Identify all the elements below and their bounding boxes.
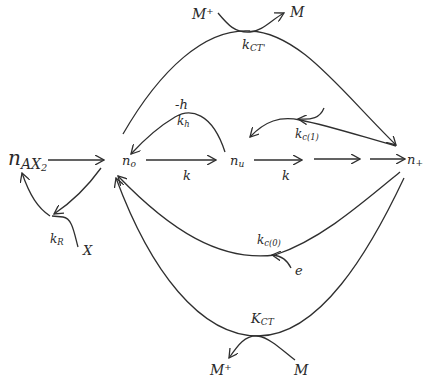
arrow-mplus-to-m-top bbox=[218, 13, 284, 32]
rate-k-c0-sub: c(0) bbox=[264, 238, 281, 248]
species-m-top: M bbox=[290, 5, 304, 19]
node-n-plus: n+ bbox=[407, 153, 423, 168]
arrow-no-to-kr bbox=[54, 168, 101, 214]
arrow-e-input bbox=[272, 255, 291, 268]
species-m-plus-top: M⁺ bbox=[192, 7, 214, 21]
node-n-ax2-base: n bbox=[8, 146, 21, 170]
rate-k-h-sub: h bbox=[184, 119, 189, 129]
species-m-plus-bottom: M⁺ bbox=[210, 363, 232, 377]
node-n-ax2-sub: AX bbox=[21, 156, 41, 172]
rate-k-r-sub: R bbox=[57, 237, 63, 247]
node-n-o: no bbox=[122, 154, 136, 169]
node-n-plus-sub: + bbox=[415, 158, 423, 168]
arrow-m-to-mplus-bottom bbox=[229, 336, 295, 360]
rate-k-ct-top-base: k bbox=[242, 37, 250, 52]
node-n-ax2: nAX2 bbox=[8, 148, 47, 173]
rate-k-ct-top-sub: CT' bbox=[250, 43, 266, 53]
species-m-bottom: M bbox=[294, 363, 308, 377]
species-e: e bbox=[295, 264, 303, 277]
node-n-u: nu bbox=[230, 154, 244, 169]
arrow-kr-to-nax2 bbox=[22, 173, 50, 216]
rate-k-1: k bbox=[183, 169, 191, 182]
rate-k-2: k bbox=[282, 169, 290, 182]
arrow-kc1-input bbox=[298, 108, 324, 119]
rate-k-ct-bottom-base: K bbox=[251, 311, 261, 326]
diagram-edges bbox=[0, 0, 426, 381]
node-n-ax2-sub2: 2 bbox=[41, 162, 47, 173]
species-x: X bbox=[83, 244, 92, 257]
rate-k-h: kh bbox=[177, 115, 190, 129]
rate-k-c1-sub: c(1) bbox=[302, 132, 319, 142]
rate-k-c0: kc(0) bbox=[257, 234, 281, 248]
rate-k-ct-bottom: KCT bbox=[251, 312, 274, 327]
rate-k-r: kR bbox=[50, 233, 64, 247]
node-n-o-sub: o bbox=[130, 159, 135, 169]
node-n-u-sub: u bbox=[238, 159, 244, 169]
reaction-scheme-diagram: nAX2 no nu n+ M⁺ M M⁺ M X e kCT' -h kh k… bbox=[0, 0, 426, 381]
rate-minus-h: -h bbox=[175, 98, 188, 111]
rate-k-c1: kc(1) bbox=[295, 128, 319, 142]
rate-k-ct-bottom-sub: CT bbox=[261, 317, 274, 327]
rate-k-ct-top: kCT' bbox=[242, 38, 265, 53]
